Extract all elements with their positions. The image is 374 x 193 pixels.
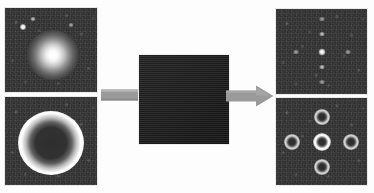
speckle-bright-feature: [20, 24, 26, 30]
ring-order-left-feature: [284, 134, 300, 150]
speckle-texture-overlay: [276, 9, 367, 94]
panel-output-gaussian: [276, 9, 367, 94]
order-right-feature: [345, 50, 351, 54]
noise-texture-overlay: [276, 98, 367, 185]
order-up-feature: [319, 32, 325, 36]
panel-input-gaussian: [5, 8, 97, 92]
speckle-texture-overlay: [5, 97, 97, 185]
annulus-ring-feature: [18, 111, 84, 175]
order-dn-far-feature: [319, 80, 325, 84]
order-0-feature: [318, 48, 325, 55]
figure-canvas: [0, 0, 374, 193]
order-down-feature: [319, 65, 325, 69]
panel-input-annulus: [5, 97, 97, 185]
ring-order-right-feature: [343, 134, 359, 150]
figure-caption: [0, 187, 374, 193]
gaussian-core-feature: [27, 30, 79, 80]
mask-grid-lattice: [139, 55, 229, 144]
speckle-texture-overlay: [276, 98, 367, 185]
noise-texture-overlay: [5, 97, 97, 185]
panel-mask-grid: [139, 55, 229, 144]
flow-arrow-into-mask: [101, 87, 143, 103]
order-up-far-feature: [319, 17, 325, 21]
flow-arrow-out-of-mask: [226, 84, 274, 108]
ring-order-down-feature: [314, 159, 330, 175]
ring-order-up-feature: [314, 109, 330, 125]
speckle-faint-a-feature: [30, 17, 35, 21]
order-left-feature: [293, 50, 299, 54]
speckle-faint-b-feature: [69, 23, 74, 27]
noise-texture-overlay: [276, 9, 367, 94]
speckle-texture-overlay: [5, 8, 97, 92]
ring-order-0-feature: [313, 133, 331, 151]
panel-output-annulus: [276, 98, 367, 185]
noise-texture-overlay: [5, 8, 97, 92]
